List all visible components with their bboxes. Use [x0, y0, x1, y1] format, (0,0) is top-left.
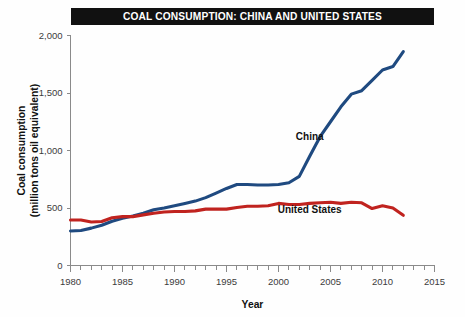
x-tick-label: 1990 [164, 276, 185, 287]
y-axis-title-line1: Coal consumption [16, 106, 27, 196]
x-tick-label: 2010 [372, 276, 393, 287]
x-tick-label: 2005 [320, 276, 341, 287]
y-tick-label: 1,500 [39, 87, 63, 98]
x-tick-label: 1985 [112, 276, 133, 287]
y-tick-label: 500 [47, 202, 63, 213]
x-tick-label: 2000 [268, 276, 289, 287]
x-tick-label: 1980 [60, 276, 81, 287]
x-tick-label: 2015 [424, 276, 445, 287]
y-axis-title-line2: (million tons oil equivalent) [29, 84, 40, 217]
x-axis: 19801985199019952000200520102015 [60, 266, 445, 287]
y-axis: 05001,0001,5002,000 [39, 30, 71, 271]
line-chart-plot: 05001,0001,5002,000 19801985199019952000… [0, 0, 465, 317]
y-tick-label: 0 [57, 260, 62, 271]
y-tick-label: 1,000 [39, 145, 63, 156]
x-axis-title: Year [242, 299, 264, 310]
series-lines [71, 52, 404, 231]
series-line-china [71, 52, 404, 231]
series-label-china: China [296, 131, 324, 142]
x-tick-label: 1995 [216, 276, 237, 287]
chart-page: COAL CONSUMPTION: CHINA AND UNITED STATE… [0, 0, 465, 317]
series-label-united-states: United States [278, 204, 342, 215]
y-tick-label: 2,000 [39, 30, 63, 41]
